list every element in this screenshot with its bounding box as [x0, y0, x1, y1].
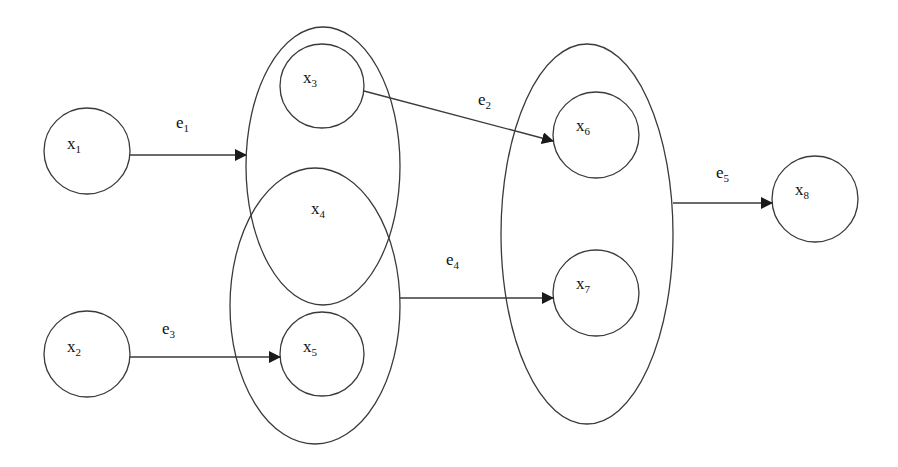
- node-x6: [553, 92, 639, 178]
- label-e5: e5: [716, 163, 730, 184]
- hypergraph-diagram: x1 x2 x3 x4 x5 x6 x7 x8 e1 e2 e3 e4 e5: [0, 0, 898, 467]
- node-x5: [280, 312, 364, 396]
- label-x5: x5: [303, 337, 318, 358]
- node-x2: [44, 311, 130, 397]
- label-x7: x7: [576, 274, 591, 295]
- group-ellipse-x3-x4: [246, 27, 400, 305]
- label-x4: x4: [311, 199, 326, 220]
- label-e2: e2: [478, 90, 491, 111]
- label-x1: x1: [67, 134, 81, 155]
- node-x3: [280, 44, 364, 128]
- label-x8: x8: [795, 180, 810, 201]
- label-x3: x3: [303, 68, 318, 89]
- node-x1: [44, 108, 130, 194]
- label-x6: x6: [576, 116, 591, 137]
- label-e1: e1: [176, 113, 189, 134]
- edge-e2-arrow: [364, 91, 553, 141]
- node-x7: [553, 250, 639, 336]
- group-ellipse-x6-x7: [501, 44, 673, 424]
- label-e3: e3: [162, 319, 176, 340]
- label-x2: x2: [67, 337, 81, 358]
- label-e4: e4: [446, 250, 460, 271]
- node-x8: [772, 156, 858, 242]
